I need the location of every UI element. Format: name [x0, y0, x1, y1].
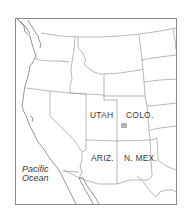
- state-label-colorado: COLO.: [126, 111, 153, 120]
- locator-map: UTAH COLO. ARIZ. N. MEX. Pacific Ocean: [0, 0, 188, 214]
- ocean-label-line2: Ocean: [22, 174, 49, 183]
- state-label-utah: UTAH: [90, 111, 113, 120]
- ocean-label: Pacific Ocean: [22, 165, 49, 184]
- state-label-arizona: ARIZ.: [91, 154, 114, 163]
- state-label-new-mexico: N. MEX.: [124, 154, 157, 163]
- location-marker: [121, 123, 127, 128]
